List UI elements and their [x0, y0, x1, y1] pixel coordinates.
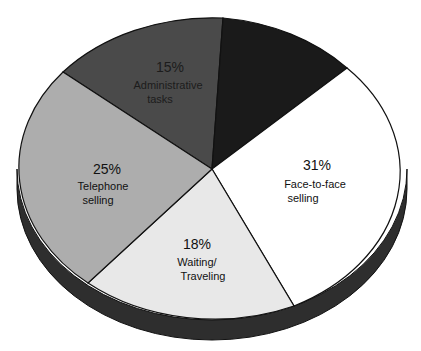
waiting-label-line1: Waiting/ [177, 256, 217, 268]
waiting-label-line2: Traveling [181, 270, 226, 282]
admin-label-line2: tasks [147, 93, 173, 105]
face-label-line1: Face-to-face [284, 178, 346, 190]
face-label-line2: selling [287, 192, 318, 204]
admin-percent: 15% [156, 59, 184, 75]
face-percent: 31% [303, 157, 331, 173]
telephone-percent: 25% [93, 161, 121, 177]
pie-chart: 15% Administrative tasks 25% Telephone s… [0, 0, 421, 351]
telephone-label-line2: selling [82, 194, 113, 206]
admin-label-line1: Administrative [133, 79, 202, 91]
telephone-label-line1: Telephone [78, 180, 129, 192]
waiting-percent: 18% [183, 236, 211, 252]
